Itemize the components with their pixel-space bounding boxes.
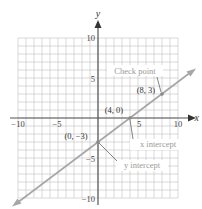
point-check [160, 92, 164, 96]
coordinate-plane: x y −10 −5 5 10 10 5 −5 −10 (4, 0) (0, −… [0, 0, 202, 209]
x-tick-label: −10 [11, 119, 24, 129]
point-x-intercept [128, 116, 132, 120]
y-tick-label: 10 [87, 33, 96, 43]
y-tick-label: −5 [86, 154, 95, 164]
callout-x-intercept: x intercept [140, 139, 177, 149]
callout-check-point: Check point [114, 66, 156, 76]
y-tick-label: −10 [82, 194, 95, 204]
callout-leader-x-intercept [130, 120, 133, 139]
x-tick-label: −5 [52, 119, 61, 129]
y-tick-label: 5 [91, 74, 95, 84]
x-axis-label: x [194, 112, 200, 123]
x-tick-label: 10 [174, 119, 183, 129]
callout-leader-check [157, 77, 161, 92]
y-axis-label: y [95, 8, 101, 19]
point-label-y-intercept: (0, −3) [64, 131, 87, 141]
callout-y-intercept: y intercept [124, 160, 161, 170]
y-axis-arrow-icon [95, 20, 102, 28]
point-label-x-intercept: (4, 0) [105, 105, 124, 115]
graph-line [17, 72, 191, 203]
x-tick-label: 5 [137, 119, 141, 129]
point-label-check: (8, 3) [137, 85, 156, 95]
